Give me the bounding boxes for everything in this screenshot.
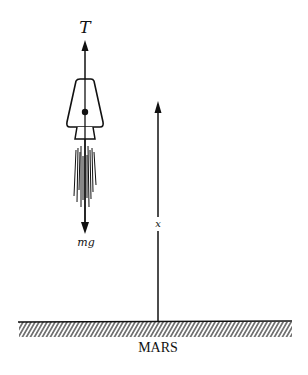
height-arrow (155, 101, 162, 322)
thrust-label: T (79, 17, 92, 37)
rocket-free-body-diagram: T mg x MA (0, 0, 308, 375)
ground-label: MARS (138, 340, 178, 355)
height-label: x (155, 218, 161, 229)
mars-ground (18, 321, 292, 337)
weight-label: mg (77, 236, 94, 249)
